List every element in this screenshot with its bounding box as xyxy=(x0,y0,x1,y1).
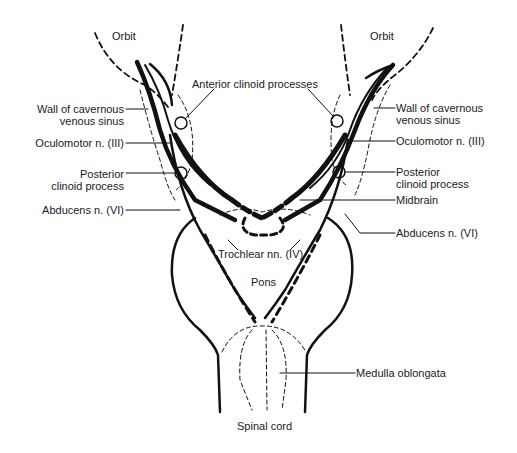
orbit-left-inner xyxy=(172,25,183,95)
label-abducens-right: Abducens n. (VI) xyxy=(396,227,478,239)
label-wall-cavernous-left-1: Wall of cavernous xyxy=(37,103,124,115)
label-oculomotor-right: Oculomotor n. (III) xyxy=(396,135,485,147)
orbit-right-inner xyxy=(341,25,350,95)
cavernous-wall-left xyxy=(140,90,175,200)
label-wall-cavernous-right-1: Wall of cavernous xyxy=(396,102,483,114)
label-wall-cavernous-right-2: venous sinus xyxy=(396,114,460,126)
trochlear-nerve xyxy=(243,218,283,235)
label-posterior-clinoid-left-1: Posterior xyxy=(80,168,124,180)
cavernous-wall-right xyxy=(355,85,390,195)
label-posterior-clinoid-right-1: Posterior xyxy=(396,166,440,178)
label-pons: Pons xyxy=(251,276,276,288)
label-abducens-left: Abducens n. (VI) xyxy=(42,204,124,216)
label-midbrain: Midbrain xyxy=(396,194,438,206)
label-wall-cavernous-left-2: venous sinus xyxy=(60,115,124,127)
anterior-clinoid-left xyxy=(175,117,187,129)
label-spinal-cord: Spinal cord xyxy=(237,420,292,432)
abducens-nerve-left xyxy=(170,135,255,318)
medulla-outline xyxy=(222,326,306,352)
label-posterior-clinoid-left-2: clinoid process xyxy=(51,180,124,192)
label-anterior-clinoid: Anterior clinoid processes xyxy=(192,78,318,90)
label-medulla: Medulla oblongata xyxy=(356,367,446,379)
anterior-clinoid-right xyxy=(331,115,343,127)
label-posterior-clinoid-right-2: clinoid process xyxy=(396,178,469,190)
label-orbit-left: Orbit xyxy=(112,30,136,42)
label-trochlear: Trochlear nn. (IV) xyxy=(218,248,303,260)
label-oculomotor-left: Oculomotor n. (III) xyxy=(35,137,124,149)
label-orbit-right: Orbit xyxy=(370,30,394,42)
